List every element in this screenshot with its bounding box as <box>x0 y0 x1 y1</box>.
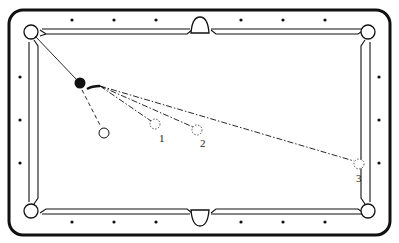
ghost-ball-1 <box>150 119 160 129</box>
pocket-bottom-left <box>24 204 38 218</box>
object-ball <box>99 128 109 138</box>
pocket-bottom-right <box>361 204 375 218</box>
pool-table-diagram: 1 2 3 <box>0 0 399 243</box>
table-outer-rail <box>9 10 390 235</box>
position-label-2: 2 <box>200 137 206 149</box>
cue-ball <box>75 78 86 89</box>
ghost-ball-3 <box>354 159 364 169</box>
position-label-1: 1 <box>159 132 165 144</box>
ghost-ball-2 <box>192 125 202 135</box>
pocket-top-right <box>361 25 375 39</box>
position-label-3: 3 <box>356 172 362 184</box>
